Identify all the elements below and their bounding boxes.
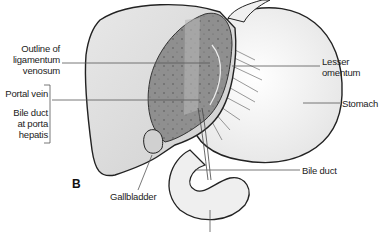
label-line: Lesser	[322, 56, 360, 67]
anatomy-figure: Outline of ligamentum venosum Portal vei…	[0, 0, 391, 232]
gallbladder-shape	[144, 130, 163, 154]
label-line: hepatis	[2, 129, 48, 140]
label-bile-duct: Bile duct	[302, 165, 337, 176]
liver-stomach-illustration	[0, 0, 391, 232]
label-lesser-omentum: Lesser omentum	[322, 56, 360, 78]
label-line: Bile duct	[2, 107, 48, 118]
label-gallbladder: Gallbladder	[110, 191, 156, 202]
label-portal-vein: Portal vein	[0, 88, 48, 99]
panel-label: B	[72, 177, 81, 191]
label-line: omentum	[322, 67, 360, 78]
label-line: ligamentum	[2, 54, 60, 65]
label-bile-duct-porta-hepatis: Bile duct at porta hepatis	[2, 107, 48, 140]
label-stomach: Stomach	[342, 98, 378, 109]
label-line: at porta	[2, 118, 48, 129]
label-line: venosum	[2, 65, 60, 76]
label-line: Outline of	[2, 43, 60, 54]
label-outline-ligamentum-venosum: Outline of ligamentum venosum	[2, 43, 60, 76]
